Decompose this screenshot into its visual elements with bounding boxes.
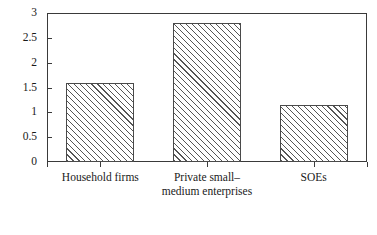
x-tick-mark bbox=[47, 162, 48, 167]
y-tick-mark bbox=[47, 63, 52, 64]
y-tick-mark bbox=[47, 112, 52, 113]
bar bbox=[173, 23, 241, 162]
y-tick-label: 2 bbox=[31, 57, 37, 69]
y-tick-mark bbox=[47, 38, 52, 39]
x-tick-label: SOEs bbox=[262, 170, 365, 184]
y-tick-label: 1 bbox=[31, 107, 37, 119]
bars-layer bbox=[47, 13, 367, 162]
bar bbox=[280, 105, 348, 162]
x-tick-mark bbox=[207, 162, 208, 167]
bar-chart: 00.511.522.53 Household firmsPrivate sma… bbox=[0, 0, 377, 235]
x-tick-label: Private small–medium enterprises bbox=[156, 170, 259, 198]
y-tick-label: 0 bbox=[31, 156, 37, 168]
y-axis: 00.511.522.53 bbox=[0, 0, 47, 235]
y-tick-label: 0.5 bbox=[23, 131, 37, 143]
x-tick-label: Household firms bbox=[49, 170, 152, 184]
x-tick-mark bbox=[314, 162, 315, 167]
x-tick-mark bbox=[367, 162, 368, 167]
bar bbox=[66, 83, 134, 162]
y-tick-mark bbox=[47, 88, 52, 89]
y-tick-label: 1.5 bbox=[23, 82, 37, 94]
y-tick-label: 3 bbox=[31, 7, 37, 19]
y-tick-mark bbox=[47, 137, 52, 138]
x-tick-mark bbox=[100, 162, 101, 167]
x-axis-labels: Household firmsPrivate small–medium ente… bbox=[47, 170, 367, 220]
y-tick-label: 2.5 bbox=[23, 32, 37, 44]
